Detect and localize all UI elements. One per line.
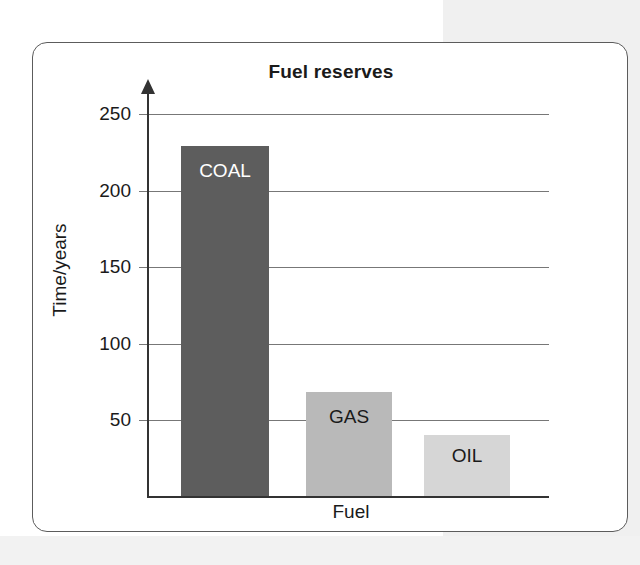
- bar-chart: Fuel reserves Time/years 50 100 150 200 …: [33, 43, 629, 533]
- y-tick-label-50: 50: [69, 409, 131, 431]
- y-axis-line: [147, 91, 149, 497]
- y-tick-label-250: 250: [69, 103, 131, 125]
- chart-axes: 50 100 150 200 250 COAL GAS OIL: [33, 43, 629, 533]
- y-tick-label-100: 100: [69, 333, 131, 355]
- background-band-bottom: [0, 536, 640, 565]
- y-tick-label-150: 150: [69, 256, 131, 278]
- bar-oil[interactable]: OIL: [424, 435, 510, 496]
- bar-label-oil: OIL: [424, 445, 510, 467]
- x-axis-title: Fuel: [141, 501, 561, 523]
- bar-label-gas: GAS: [306, 406, 392, 428]
- y-tick-label-200: 200: [69, 180, 131, 202]
- chart-card: Fuel reserves Time/years 50 100 150 200 …: [32, 42, 628, 532]
- gridline-250: [148, 114, 549, 115]
- x-axis-line: [147, 496, 549, 498]
- bar-label-coal: COAL: [181, 160, 269, 182]
- bar-gas[interactable]: GAS: [306, 392, 392, 496]
- bar-coal[interactable]: COAL: [181, 146, 269, 496]
